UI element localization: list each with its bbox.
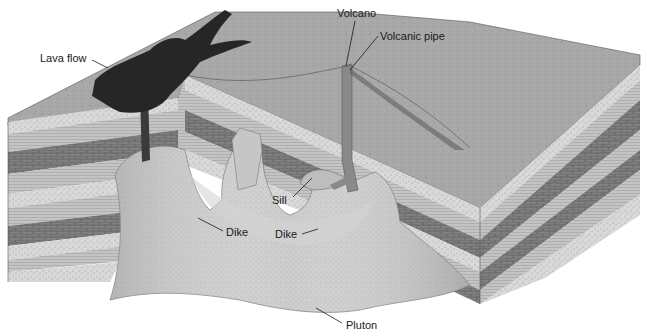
label-dike-left-text: Dike [226, 226, 248, 238]
label-lava-flow: Lava flow [40, 52, 108, 68]
label-volcanic-pipe-text: Volcanic pipe [380, 30, 445, 42]
label-lava-flow-text: Lava flow [40, 52, 87, 64]
label-pluton-text: Pluton [346, 319, 377, 331]
igneous-features-block-diagram: Lava flow Volcano Volcanic pipe Sill Dik… [0, 0, 647, 336]
label-volcano-text: Volcano [337, 7, 376, 19]
label-sill-text: Sill [272, 194, 287, 206]
label-dike-right-text: Dike [275, 228, 297, 240]
